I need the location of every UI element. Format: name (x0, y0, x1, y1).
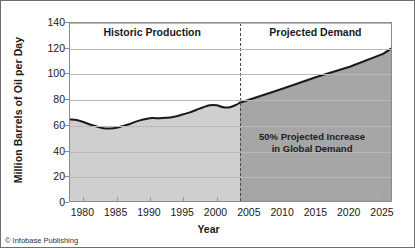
x-tick-label: 2020 (337, 206, 360, 218)
historic-production-label: Historic Production (104, 26, 201, 38)
y-tick-mark (65, 48, 69, 49)
publisher-credit: © Infobase Publishing (5, 236, 78, 245)
projected-demand-label: Projected Demand (269, 26, 361, 38)
y-tick-label: 140 (35, 17, 65, 27)
chart-series-svg (70, 23, 392, 202)
x-tick-mark (117, 197, 118, 201)
y-tick-mark (65, 22, 69, 23)
x-tick-mark (383, 197, 384, 201)
y-tick-label: 100 (35, 68, 65, 78)
x-tick-label: 1985 (104, 206, 127, 218)
x-tick-mark (350, 197, 351, 201)
x-tick-mark (250, 197, 251, 201)
projected-increase-annotation: 50% Projected Increase in Global Demand (259, 131, 365, 155)
y-tick-mark (65, 125, 69, 126)
y-tick-label: 80 (35, 94, 65, 104)
x-tick-mark (283, 197, 284, 201)
gridline (70, 126, 391, 127)
chart-figure: Million Barrels of Oil per Day 020406080… (0, 0, 415, 248)
y-tick-mark (65, 73, 69, 74)
y-tick-mark (65, 99, 69, 100)
x-tick-mark (316, 197, 317, 201)
x-tick-label: 1980 (71, 206, 94, 218)
x-tick-label: 2010 (270, 206, 293, 218)
x-tick-label: 2005 (237, 206, 260, 218)
gridline (70, 100, 391, 101)
x-tick-mark (83, 197, 84, 201)
x-tick-label: 1995 (171, 206, 194, 218)
x-tick-mark (217, 197, 218, 201)
y-tick-label: 120 (35, 43, 65, 53)
x-tick-mark (183, 197, 184, 201)
annotation-line-2: in Global Demand (259, 143, 365, 155)
x-tick-label: 2015 (304, 206, 327, 218)
y-tick-mark (65, 202, 69, 203)
gridline (70, 177, 391, 178)
y-tick-label: 60 (35, 120, 65, 130)
x-tick-label: 2000 (204, 206, 227, 218)
gridline (70, 49, 391, 50)
x-tick-mark (150, 197, 151, 201)
x-tick-label: 1990 (137, 206, 160, 218)
x-tick-label: 2025 (370, 206, 393, 218)
y-axis-title: Million Barrels of Oil per Day (12, 15, 24, 205)
annotation-line-1: 50% Projected Increase (259, 131, 365, 143)
y-tick-label: 0 (35, 197, 65, 207)
y-tick-label: 40 (35, 146, 65, 156)
x-axis-title: Year (1, 223, 415, 235)
y-axis-tick-labels: 020406080100120140 (31, 1, 65, 248)
plot-area (69, 22, 392, 202)
gridline (70, 23, 391, 24)
gridline (70, 74, 391, 75)
y-tick-label: 20 (35, 171, 65, 181)
y-tick-mark (65, 176, 69, 177)
y-tick-mark (65, 151, 69, 152)
